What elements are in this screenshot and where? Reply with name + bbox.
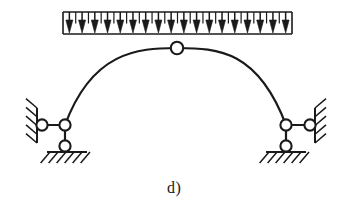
figure-label: d): [167, 179, 181, 197]
load-arrow-head: [231, 20, 238, 33]
load-arrow-head: [104, 20, 111, 33]
distributed-load-group: [63, 12, 292, 34]
right-wall-support-hatch: [315, 116, 326, 125]
left-wall-support-hatch: [26, 99, 37, 108]
left-ground-support-hatch: [49, 152, 58, 163]
right-arch-joint: [280, 119, 291, 130]
right-ground-pin: [280, 140, 291, 151]
left-ground-support-hatch: [73, 152, 82, 163]
right-wall-support-hatch: [315, 99, 326, 108]
left-ground-support-hatch: [41, 152, 50, 163]
left-ground-support-hatch: [57, 152, 66, 163]
load-arrow-head: [206, 20, 213, 33]
right-ground-support-hatch: [292, 152, 301, 163]
crown-hinge: [171, 42, 183, 54]
load-arrow-head: [129, 20, 136, 33]
load-arrow-head: [269, 20, 276, 33]
right-ground-support-hatch: [276, 152, 285, 163]
right-ground-support-hatch: [260, 152, 269, 163]
left-wall-support-hatch: [26, 125, 37, 134]
load-arrow-head: [117, 20, 124, 33]
left-wall-support-hatch: [26, 134, 37, 143]
load-arrow-head: [79, 20, 86, 33]
right-ground-support-hatch: [284, 152, 293, 163]
left-ground-support-hatch: [81, 152, 90, 163]
right-wall-support-hatch: [315, 125, 326, 134]
load-arrow-head: [155, 20, 162, 33]
right-ground-support-hatch: [300, 152, 309, 163]
figure-container: d): [0, 0, 351, 213]
load-arrow-head: [91, 20, 98, 33]
load-arrow-head: [282, 20, 289, 33]
rigid-links-group: [42, 125, 310, 146]
left-wall-support-hatch: [26, 116, 37, 125]
right-wall-pin: [304, 119, 315, 130]
load-arrow-head: [168, 20, 175, 33]
left-ground-pin: [59, 140, 70, 151]
load-arrow-head: [180, 20, 187, 33]
load-arrow-head: [219, 20, 226, 33]
arch-rib-curve: [65, 48, 286, 125]
load-arrow-head: [66, 20, 73, 33]
left-wall-pin: [36, 119, 47, 130]
load-arrow-head: [257, 20, 264, 33]
arch-rib-group: [65, 48, 286, 125]
load-arrow-head: [142, 20, 149, 33]
left-ground-support-hatch: [65, 152, 74, 163]
left-wall-support-hatch: [26, 107, 37, 116]
load-arrow-head: [193, 20, 200, 33]
right-wall-support-hatch: [315, 134, 326, 143]
left-arch-joint: [59, 119, 70, 130]
right-wall-support-hatch: [315, 107, 326, 116]
load-arrow-head: [244, 20, 251, 33]
right-ground-support-hatch: [268, 152, 277, 163]
